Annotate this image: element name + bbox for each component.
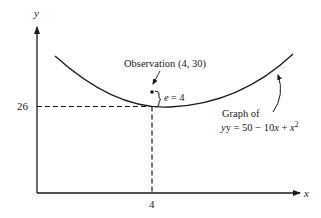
regression-diagram: y x 26 4 Observation (4, 30) e= 4 Graph … [0,0,321,218]
x-axis-label: x [303,187,309,199]
error-brace [155,91,161,107]
observation-leader-arrow [153,71,160,84]
curve-pointer-arrow [273,75,281,112]
x-tick-4: 4 [149,198,155,210]
y-tick-26: 26 [17,100,29,112]
observation-label: Observation (4, 30) [124,58,206,70]
observation-point [150,90,154,94]
y-axis-label: y [33,7,39,19]
curve-equation: yy = 50 − 10x + x2 [220,120,299,133]
error-label: e= 4 [164,92,185,103]
curve-caption-line1: Graph of [222,108,260,119]
